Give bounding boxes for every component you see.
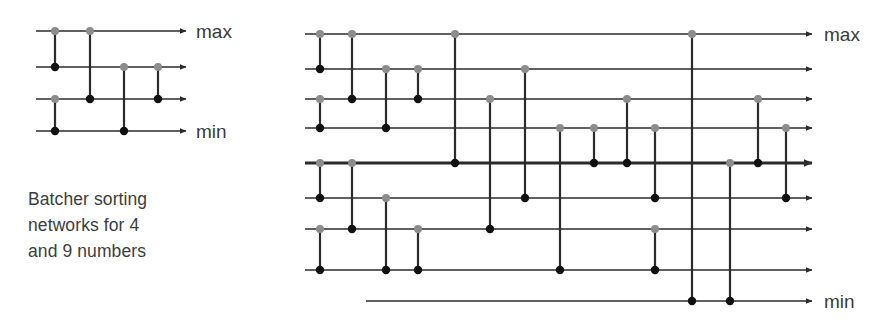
comparator-upper-dot bbox=[486, 95, 494, 103]
caption-line-2: networks for 4 bbox=[28, 212, 238, 238]
comparator bbox=[556, 124, 564, 274]
comparator-upper-dot bbox=[382, 194, 390, 202]
comparator bbox=[316, 95, 324, 132]
comparator-lower-dot bbox=[623, 159, 631, 167]
comparator-lower-dot bbox=[348, 225, 356, 233]
caption-line-2-text: networks for 4 bbox=[28, 215, 139, 235]
comparator-lower-dot bbox=[651, 194, 659, 202]
comparator-lower-dot bbox=[782, 194, 790, 202]
comparator-lower-dot bbox=[521, 194, 529, 202]
comparator-upper-dot bbox=[414, 65, 422, 73]
comparator bbox=[754, 95, 762, 167]
comparator-upper-dot bbox=[726, 159, 734, 167]
comparator-upper-dot bbox=[623, 95, 631, 103]
comparator bbox=[521, 65, 529, 202]
comparator-lower-dot bbox=[651, 266, 659, 274]
comparator-lower-dot bbox=[754, 159, 762, 167]
comparator-upper-dot bbox=[688, 30, 696, 38]
network-9-min-label: min bbox=[824, 291, 855, 312]
batcher-network-4 bbox=[36, 27, 186, 135]
comparator-lower-dot bbox=[486, 225, 494, 233]
figure-caption: Batcher sorting networks for 4 and 9 num… bbox=[28, 186, 238, 264]
comparator bbox=[316, 30, 324, 73]
comparator-lower-dot bbox=[348, 95, 356, 103]
comparator-upper-dot bbox=[451, 30, 459, 38]
caption-line-3-text: and 9 numbers bbox=[28, 241, 146, 261]
comparator-upper-dot bbox=[348, 30, 356, 38]
comparator-lower-dot bbox=[382, 266, 390, 274]
comparator-upper-dot bbox=[86, 27, 94, 35]
comparator-lower-dot bbox=[51, 63, 59, 71]
comparator-lower-dot bbox=[556, 266, 564, 274]
comparator-upper-dot bbox=[316, 30, 324, 38]
comparator-lower-dot bbox=[688, 297, 696, 305]
comparator-upper-dot bbox=[316, 225, 324, 233]
comparator-upper-dot bbox=[556, 124, 564, 132]
comparator-upper-dot bbox=[316, 159, 324, 167]
comparator bbox=[623, 95, 631, 167]
comparator-upper-dot bbox=[414, 225, 422, 233]
comparator-lower-dot bbox=[316, 266, 324, 274]
comparator-upper-dot bbox=[782, 124, 790, 132]
comparator-lower-dot bbox=[414, 266, 422, 274]
comparator bbox=[316, 225, 324, 274]
comparator-lower-dot bbox=[316, 194, 324, 202]
comparator-lower-dot bbox=[86, 95, 94, 103]
comparator bbox=[348, 159, 356, 233]
comparator-lower-dot bbox=[120, 127, 128, 135]
comparator bbox=[51, 27, 59, 71]
comparator-upper-dot bbox=[590, 124, 598, 132]
comparator-lower-dot bbox=[590, 159, 598, 167]
comparator-lower-dot bbox=[154, 95, 162, 103]
network-4-min-label: min bbox=[196, 121, 227, 142]
comparator-lower-dot bbox=[726, 297, 734, 305]
caption-line-3: and 9 numbers bbox=[28, 238, 238, 264]
comparator-upper-dot bbox=[348, 159, 356, 167]
caption-line-1-text: Batcher sorting bbox=[28, 189, 147, 209]
comparator-lower-dot bbox=[51, 127, 59, 135]
comparator-upper-dot bbox=[651, 225, 659, 233]
comparator bbox=[414, 225, 422, 274]
comparator-upper-dot bbox=[154, 63, 162, 71]
caption-line-1: Batcher sorting bbox=[28, 186, 238, 212]
comparator bbox=[154, 63, 162, 103]
comparator bbox=[316, 159, 324, 202]
comparator bbox=[414, 65, 422, 103]
comparator bbox=[590, 124, 598, 167]
comparator-upper-dot bbox=[382, 65, 390, 73]
comparator bbox=[348, 30, 356, 103]
comparator-upper-dot bbox=[754, 95, 762, 103]
comparator bbox=[51, 95, 59, 135]
comparator-lower-dot bbox=[316, 124, 324, 132]
comparator-upper-dot bbox=[521, 65, 529, 73]
network-9-max-label: max bbox=[824, 24, 860, 45]
comparator-upper-dot bbox=[316, 95, 324, 103]
comparator-upper-dot bbox=[651, 124, 659, 132]
comparator-upper-dot bbox=[51, 27, 59, 35]
comparator-upper-dot bbox=[120, 63, 128, 71]
batcher-network-9 bbox=[305, 30, 812, 305]
comparator-lower-dot bbox=[382, 124, 390, 132]
comparator bbox=[651, 225, 659, 274]
batcher-sorting-networks-figure: max min max min bbox=[0, 0, 887, 324]
comparator-lower-dot bbox=[316, 65, 324, 73]
comparator bbox=[688, 30, 696, 305]
comparator bbox=[726, 159, 734, 305]
network-4-max-label: max bbox=[196, 21, 232, 42]
comparator bbox=[382, 194, 390, 274]
comparator-lower-dot bbox=[414, 95, 422, 103]
comparator-lower-dot bbox=[451, 159, 459, 167]
comparator-upper-dot bbox=[51, 95, 59, 103]
comparator bbox=[86, 27, 94, 103]
